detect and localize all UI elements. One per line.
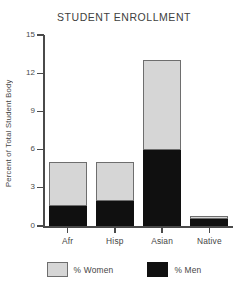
x-axis-tick xyxy=(67,227,68,233)
x-axis-tick-label: Afr xyxy=(45,236,91,246)
bar-segment-men xyxy=(143,150,181,226)
bar-segment-women xyxy=(96,162,134,200)
legend-swatch xyxy=(147,262,168,277)
legend-swatch xyxy=(47,262,68,277)
x-axis-tick-label: Asian xyxy=(139,236,185,246)
y-axis-tick xyxy=(37,73,44,74)
bar-segment-men xyxy=(96,201,134,226)
chart-legend: % Women% Men xyxy=(0,262,248,277)
x-axis-tick xyxy=(209,227,210,233)
bar-afr xyxy=(49,162,87,226)
legend-label: % Women xyxy=(74,265,114,275)
y-axis-label: Percent of Total Student Body xyxy=(1,48,15,218)
bar-segment-men xyxy=(190,219,228,226)
y-axis-tick xyxy=(37,225,44,226)
y-axis-tick-label: 0 xyxy=(20,222,35,230)
legend-item: % Women xyxy=(47,262,114,277)
x-axis-line xyxy=(43,226,233,228)
legend-label: % Men xyxy=(174,265,201,275)
x-axis-tick xyxy=(161,227,162,233)
bar-hisp xyxy=(96,162,134,226)
chart-container: STUDENT ENROLLMENT Percent of Total Stud… xyxy=(0,0,248,297)
bar-segment-women xyxy=(143,60,181,149)
y-axis-tick xyxy=(37,111,44,112)
x-axis-tick xyxy=(114,227,115,233)
y-axis-tick-label: 6 xyxy=(20,145,35,153)
bar-native xyxy=(190,216,228,226)
plot-area xyxy=(44,35,233,226)
y-axis-tick-label: 12 xyxy=(20,69,35,77)
chart-title: STUDENT ENROLLMENT xyxy=(0,11,248,23)
y-axis-tick xyxy=(37,149,44,150)
y-axis-tick-label: 15 xyxy=(20,31,35,39)
bar-asian xyxy=(143,60,181,226)
x-axis-tick-label: Native xyxy=(186,236,232,246)
x-axis-tick-label: Hisp xyxy=(92,236,138,246)
bar-segment-women xyxy=(49,162,87,205)
legend-item: % Men xyxy=(147,262,201,277)
y-axis-tick-label: 9 xyxy=(20,107,35,115)
y-axis-tick xyxy=(37,187,44,188)
y-axis-tick xyxy=(37,34,44,35)
bar-segment-men xyxy=(49,206,87,226)
y-axis-tick-label: 3 xyxy=(20,183,35,191)
